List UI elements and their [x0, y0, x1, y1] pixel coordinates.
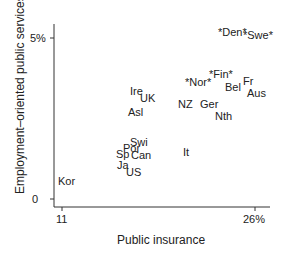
y-tick-label-min: 0	[32, 194, 38, 205]
point-label: US	[126, 167, 141, 178]
point-label: Kor	[58, 176, 75, 187]
x-tick-label-max: 26%	[243, 214, 265, 225]
point-label: Bel	[225, 82, 241, 93]
point-label: *Nor*	[185, 77, 211, 88]
point-label: Nth	[215, 111, 232, 122]
point-label: *Fin*	[209, 69, 233, 80]
point-label: Aus	[247, 88, 266, 99]
x-tick-label-min: 11	[56, 214, 67, 225]
scatter-chart: 5% 0 11 26% Public insurance Employment–…	[0, 0, 284, 254]
point-label: Can	[131, 150, 151, 161]
point-label: *Swe*	[243, 30, 273, 41]
point-label: Fr	[243, 76, 253, 87]
point-label: Ger	[200, 99, 218, 110]
point-label: It	[183, 147, 189, 158]
point-label: Asl	[128, 107, 143, 118]
y-tick-label-max: 5%	[30, 33, 46, 44]
y-axis-title: Employment–oriented public services	[13, 0, 27, 194]
x-axis-title: Public insurance	[117, 233, 205, 247]
point-label: UK	[140, 93, 155, 104]
point-label: NZ	[178, 99, 193, 110]
